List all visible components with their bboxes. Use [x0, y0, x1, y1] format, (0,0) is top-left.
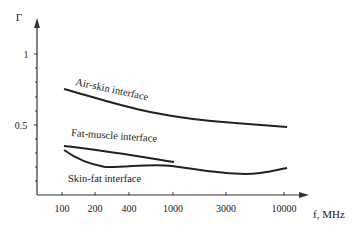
- x-tick-label-100: 100: [55, 203, 70, 214]
- reflection-coefficient-chart: 1 0.5 Γ 100 200 400 1000 3000 10000 f, M…: [0, 0, 357, 230]
- y-tick-label-0.5: 0.5: [15, 120, 28, 131]
- x-tick-label-10000: 10000: [272, 203, 297, 214]
- y-axis-arrow-icon: [34, 18, 40, 28]
- x-axis-title: f, MHz: [313, 208, 345, 220]
- x-tick-label-1000: 1000: [163, 203, 183, 214]
- x-tick-label-400: 400: [122, 203, 137, 214]
- label-air-skin: Air-skin interface: [75, 76, 150, 102]
- x-axis-arrow-icon: [299, 192, 309, 198]
- curve-air-skin: [64, 89, 287, 127]
- y-axis-title: Γ: [16, 11, 22, 23]
- x-tick-label-3000: 3000: [216, 203, 236, 214]
- label-skin-fat: Skin-fat interface: [68, 173, 142, 184]
- x-tick-label-200: 200: [88, 203, 103, 214]
- label-fat-muscle: Fat-muscle interface: [71, 127, 158, 144]
- y-tick-label-1: 1: [24, 49, 29, 60]
- curve-skin-fat: [64, 150, 287, 174]
